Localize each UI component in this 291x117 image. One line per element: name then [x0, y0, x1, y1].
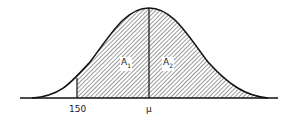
tick-mu: μ	[146, 104, 152, 114]
normal-curve-diagram	[0, 0, 291, 117]
tick-150: 150	[69, 104, 86, 114]
region-a2-label: A2	[162, 57, 174, 71]
region-a1-label: A1	[120, 57, 132, 71]
